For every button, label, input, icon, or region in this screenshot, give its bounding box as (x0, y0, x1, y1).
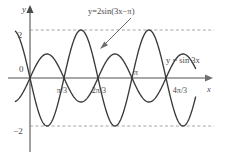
callout-label-2sin: y=2sin(3x−π) (88, 6, 135, 16)
x-tick-label-pi-over-3: π/3 (57, 86, 67, 95)
x-axis-label: x (206, 84, 211, 94)
x-tick-label-pi: π (134, 67, 139, 77)
inline-label-sin3x: y = sin 3x (166, 55, 201, 65)
origin-label: 0 (19, 64, 24, 74)
x-tick-label-2pi-over-3: 2π/3 (92, 86, 106, 95)
plot-canvas: y x 0 2 −2 π/3 2π/3 π 4π/3 y=2sin(3x−π) … (0, 0, 229, 157)
trigonometric-graph-figure: y x 0 2 −2 π/3 2π/3 π 4π/3 y=2sin(3x−π) … (0, 0, 229, 157)
x-tick-label-4pi-over-3: 4π/3 (173, 86, 187, 95)
y-axis-label: y (21, 4, 26, 14)
y-tick-label-minus-2: −2 (13, 126, 23, 136)
y-tick-label-2: 2 (18, 30, 23, 40)
